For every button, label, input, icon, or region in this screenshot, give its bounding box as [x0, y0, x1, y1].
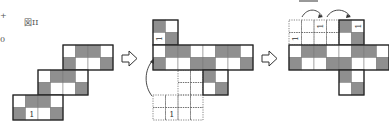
step-one: 11 — [153, 20, 253, 120]
empty-cell — [352, 58, 365, 71]
dotted-ghost-block — [178, 70, 203, 95]
shaded-cell — [327, 58, 340, 71]
empty-cell — [327, 45, 340, 58]
empty-cell — [178, 58, 191, 71]
cell-number: 1 — [169, 110, 174, 119]
cell-number: 1 — [354, 24, 363, 29]
shaded-cell — [289, 58, 302, 71]
empty-cell — [339, 33, 352, 46]
hollow-right-arrow — [262, 51, 277, 66]
empty-cell — [203, 45, 216, 58]
empty-cell — [216, 58, 229, 71]
shaded-cell — [38, 95, 51, 108]
empty-cell — [364, 58, 377, 71]
empty-cell — [63, 45, 76, 58]
shaded-cell — [63, 58, 76, 71]
shaded-cell — [339, 70, 352, 83]
empty-cell — [153, 45, 166, 58]
empty-cell — [203, 83, 216, 96]
empty-cell — [216, 70, 229, 83]
empty-cell — [241, 45, 254, 58]
shaded-cell — [314, 45, 327, 58]
shaded-cell — [241, 58, 254, 71]
empty-cell — [314, 58, 327, 71]
dotted-ghost-block: 1 — [153, 95, 203, 120]
empty-cell — [38, 108, 51, 121]
shaded-cell — [76, 83, 89, 96]
shaded-cell — [352, 83, 365, 96]
shaded-cell — [51, 70, 64, 83]
shaded-cell — [153, 58, 166, 71]
shaded-cell — [377, 58, 389, 71]
net-block: 1 — [153, 20, 178, 45]
shaded-cell — [352, 45, 365, 58]
shaded-cell — [51, 108, 64, 121]
shaded-cell — [166, 33, 179, 46]
net-block — [203, 70, 228, 95]
empty-cell — [51, 95, 64, 108]
net-block — [339, 70, 364, 95]
shaded-cell — [203, 58, 216, 71]
cell-number: 1 — [155, 36, 164, 41]
empty-cell — [101, 45, 114, 58]
shaded-cell — [339, 20, 352, 33]
step-two: 111 — [289, 20, 389, 95]
shaded-cell — [63, 70, 76, 83]
shaded-cell — [216, 45, 229, 58]
shaded-cell — [13, 108, 26, 121]
empty-cell — [228, 58, 241, 71]
net-block — [153, 45, 253, 70]
empty-cell — [63, 83, 76, 96]
cell-number: 1 — [316, 24, 325, 29]
curved-arrow-icon — [146, 60, 153, 96]
empty-cell — [88, 58, 101, 71]
shaded-cell — [339, 58, 352, 71]
cell-number: 1 — [291, 36, 300, 41]
shaded-cell — [38, 83, 51, 96]
shaded-cell — [153, 20, 166, 33]
net-block: 1 — [13, 95, 63, 120]
net-block: 1 — [339, 20, 364, 45]
empty-cell — [13, 95, 26, 108]
shaded-cell — [101, 58, 114, 71]
empty-cell — [339, 45, 352, 58]
shaded-cell — [191, 58, 204, 71]
shaded-cell — [203, 70, 216, 83]
empty-cell — [377, 45, 389, 58]
empty-cell — [76, 70, 89, 83]
empty-cell — [352, 70, 365, 83]
empty-cell — [51, 83, 64, 96]
empty-cell — [76, 58, 89, 71]
net-block — [289, 45, 389, 70]
shaded-cell — [76, 45, 89, 58]
shaded-cell — [166, 45, 179, 58]
shaded-cell — [228, 45, 241, 58]
shaded-cell — [352, 33, 365, 46]
original-net: 1 — [13, 45, 113, 120]
net-block — [38, 70, 88, 95]
empty-cell — [166, 20, 179, 33]
shaded-cell — [216, 83, 229, 96]
dotted-ghost-block: 11 — [289, 20, 339, 45]
shaded-cell — [26, 95, 39, 108]
empty-cell — [289, 45, 302, 58]
diagram-canvas: 111111 — [0, 0, 389, 126]
empty-cell — [339, 83, 352, 96]
net-block — [63, 45, 113, 70]
shaded-cell — [302, 45, 315, 58]
empty-cell — [38, 70, 51, 83]
shaded-cell — [364, 45, 377, 58]
hollow-right-arrow — [122, 51, 137, 66]
empty-cell — [302, 58, 315, 71]
empty-cell — [191, 45, 204, 58]
shaded-cell — [178, 45, 191, 58]
cell-number: 1 — [29, 110, 34, 119]
empty-cell — [166, 58, 179, 71]
shaded-cell — [88, 45, 101, 58]
